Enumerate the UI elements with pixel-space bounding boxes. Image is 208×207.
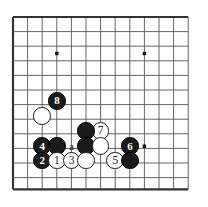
star-point xyxy=(143,52,146,55)
stone-move-number: 3 xyxy=(69,154,74,166)
stone-move-number: 5 xyxy=(112,154,117,166)
star-point xyxy=(55,52,58,55)
board-point-label-a: a xyxy=(65,140,77,152)
stone-move-number: 2 xyxy=(40,155,45,166)
stone-move-number: 8 xyxy=(54,95,59,106)
go-stone-white-plain xyxy=(77,152,95,170)
go-stone-black-move-8: 8 xyxy=(48,92,66,110)
stone-move-number: 7 xyxy=(98,125,103,137)
stone-move-number: 1 xyxy=(54,154,59,166)
goban-grid xyxy=(0,0,208,207)
stone-move-number: 6 xyxy=(127,140,132,151)
go-stone-white-plain xyxy=(33,107,51,125)
star-point xyxy=(143,145,146,148)
stone-move-number: 4 xyxy=(40,140,45,151)
go-board-diagram: 87462135 a xyxy=(0,0,208,207)
go-stone-black-plain xyxy=(121,152,139,170)
